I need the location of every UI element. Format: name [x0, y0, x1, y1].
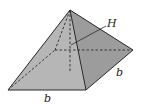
height-label: H [106, 17, 117, 30]
base-side-label: b [116, 66, 123, 79]
pyramid-diagram: H b b [0, 0, 141, 105]
base-front-label: b [44, 92, 51, 105]
